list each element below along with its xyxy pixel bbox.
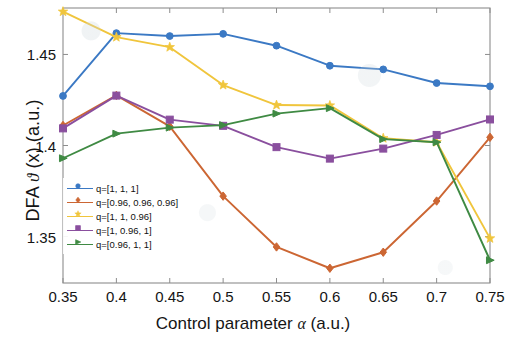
x-tick-label-0.65: 0.65: [369, 288, 398, 305]
y-tick-label-1.4: 1.4: [12, 137, 56, 154]
data-point: [60, 93, 67, 100]
y-axis-label-symbol: ϑ: [24, 174, 43, 182]
legend-item-1[interactable]: q=[0.96, 0.96, 0.96]: [67, 195, 178, 209]
legend-symbol-circle-icon: [67, 182, 93, 194]
x-axis-label-prefix: Control parameter: [156, 314, 298, 333]
data-point: [273, 42, 280, 49]
y-axis-label-prefix: DFA: [23, 182, 43, 221]
data-point: [326, 155, 333, 162]
legend-label: q=[0.96, 1, 1]: [96, 239, 152, 250]
data-point: [380, 145, 387, 152]
data-point: [433, 80, 440, 87]
x-tick-label-0.45: 0.45: [155, 288, 184, 305]
legend-symbol-triangle-icon: [67, 238, 93, 250]
data-point: [272, 100, 282, 109]
legend-marker-icon: [74, 182, 82, 190]
y-tick-label-1.45: 1.45: [12, 46, 56, 63]
x-axis-label-suffix: (a.u.): [306, 314, 350, 333]
x-tick-label-0.6: 0.6: [319, 288, 340, 305]
legend-symbol-diamond-icon: [67, 196, 93, 208]
x-tick-label-0.75: 0.75: [475, 288, 504, 305]
legend-marker-icon: [74, 210, 82, 218]
data-point: [433, 131, 440, 138]
data-point: [166, 116, 173, 123]
legend-item-3[interactable]: q=[1, 0.96, 1]: [67, 223, 178, 237]
data-point: [218, 80, 228, 89]
x-tick-label-0.5: 0.5: [213, 288, 234, 305]
legend-marker-icon: [74, 224, 82, 232]
data-point: [273, 110, 281, 117]
data-point: [487, 116, 494, 123]
data-point: [166, 33, 173, 40]
legend-label: q=[0.96, 0.96, 0.96]: [96, 197, 178, 208]
x-axis-label: Control parameter α (a.u.): [0, 314, 506, 334]
x-tick-label-0.7: 0.7: [426, 288, 447, 305]
x-axis-label-symbol: α: [297, 315, 305, 332]
legend-label: q=[1, 0.96, 1]: [96, 225, 152, 236]
series-line-0: [60, 30, 494, 100]
legend-item-0[interactable]: q=[1, 1, 1]: [67, 181, 178, 195]
legend-item-4[interactable]: q=[0.96, 1, 1]: [67, 237, 178, 251]
data-point: [113, 130, 121, 137]
data-point: [273, 144, 280, 151]
legend-label: q=[1, 1, 0.96]: [96, 211, 152, 222]
data-point: [113, 92, 120, 99]
x-tick-label-0.35: 0.35: [48, 288, 77, 305]
legend: q=[1, 1, 1]q=[0.96, 0.96, 0.96]q=[1, 1, …: [63, 178, 183, 254]
legend-item-2[interactable]: q=[1, 1, 0.96]: [67, 209, 178, 223]
y-axis-label: DFA ϑ (x) (a.u.): [23, 36, 44, 286]
data-point: [326, 62, 333, 69]
data-point: [220, 30, 227, 37]
dfa-line-chart-figure: DFA ϑ (x) (a.u.) Control parameter α (a.…: [0, 0, 506, 343]
legend-marker-icon: [74, 238, 82, 246]
data-point: [327, 264, 334, 272]
legend-symbol-square-icon: [67, 224, 93, 236]
legend-marker-icon: [74, 196, 82, 204]
data-point: [487, 83, 494, 90]
x-tick-label-0.4: 0.4: [106, 288, 127, 305]
data-point: [380, 66, 387, 73]
y-tick-label-1.35: 1.35: [12, 228, 56, 245]
legend-label: q=[1, 1, 1]: [96, 183, 139, 194]
x-tick-label-0.55: 0.55: [262, 288, 291, 305]
data-point: [60, 125, 67, 132]
legend-symbol-star-icon: [67, 210, 93, 222]
